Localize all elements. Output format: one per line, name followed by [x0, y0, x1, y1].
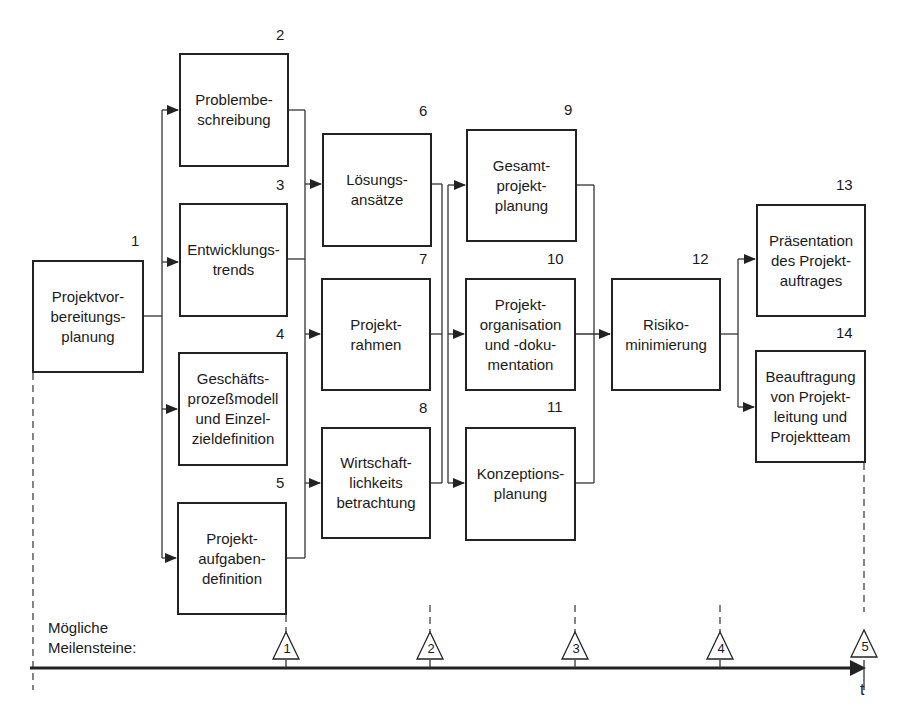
node-number-3: 3	[276, 176, 284, 193]
node-gesamtprojektplanung: Gesamt- projekt- planung	[466, 129, 577, 242]
node-konzeptionsplanung: Konzeptions- planung	[465, 427, 576, 541]
node-number-10: 10	[547, 250, 564, 267]
node-number-8: 8	[419, 399, 427, 416]
node-entwicklungstrends: Entwicklungs- trends	[179, 203, 288, 317]
node-number-11: 11	[547, 398, 563, 415]
node-number-7: 7	[419, 250, 427, 267]
node-praesentation-projektauftrag: Präsentation des Projekt- auftrages	[756, 204, 866, 317]
node-number-14: 14	[836, 324, 853, 341]
node-projektaufgabendefinition: Projekt- aufgaben- definition	[177, 502, 287, 615]
milestone-number-4: 4	[711, 641, 731, 656]
node-number-5: 5	[276, 474, 284, 491]
milestone-number-5: 5	[855, 639, 875, 654]
node-wirtschaftlichkeitsbetrachtung: Wirtschaft- lichkeits betrachtung	[321, 427, 431, 539]
node-beauftragung-projektleitung: Beauftragung von Projekt- leitung und Pr…	[755, 350, 866, 463]
node-projektorganisation: Projekt- organisation und -doku- mentati…	[465, 278, 576, 391]
node-projektvorbereitungsplanung: Projektvor- bereitungs- planung	[32, 260, 144, 373]
node-problembeschreibung: Problembe- schreibung	[179, 53, 289, 167]
milestone-number-2: 2	[421, 641, 441, 656]
milestones-label: Mögliche Meilensteine:	[48, 618, 136, 658]
time-axis-label: t	[860, 680, 864, 700]
node-number-9: 9	[564, 101, 572, 118]
node-geschaeftsprozessmodell: Geschäfts- prozeßmodell und Einzel- ziel…	[178, 352, 288, 466]
node-number-1: 1	[131, 232, 139, 249]
node-number-12: 12	[692, 250, 709, 267]
node-risikominimierung: Risiko- minimierung	[611, 278, 721, 391]
node-number-4: 4	[276, 325, 284, 342]
node-loesungsansaetze: Lösungs- ansätze	[322, 133, 432, 247]
node-number-2: 2	[276, 26, 284, 43]
node-number-13: 13	[836, 176, 853, 193]
node-number-6: 6	[419, 102, 427, 119]
node-projektrahmen: Projekt- rahmen	[321, 278, 431, 391]
milestone-number-3: 3	[566, 641, 586, 656]
milestone-number-1: 1	[277, 641, 297, 656]
